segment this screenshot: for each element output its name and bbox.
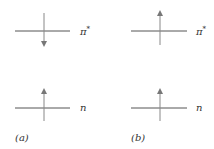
orbital-diagram: π* n (a) π* n (b) [0,0,214,149]
panel-label-b: (b) [131,132,145,143]
pi-star-level-a: π* [15,13,91,44]
n-level-b: n [131,91,202,121]
panel-b: π* n (b) [131,13,207,143]
pi-star-level-b: π* [131,13,207,45]
level-label-n: n [80,102,86,113]
level-label-pi-star: π* [195,25,207,37]
panel-a: π* n (a) [15,13,91,143]
n-level-a: n [15,91,86,121]
level-label-n: n [196,102,202,113]
level-label-pi-star: π* [79,25,91,37]
panel-label-a: (a) [15,132,29,143]
